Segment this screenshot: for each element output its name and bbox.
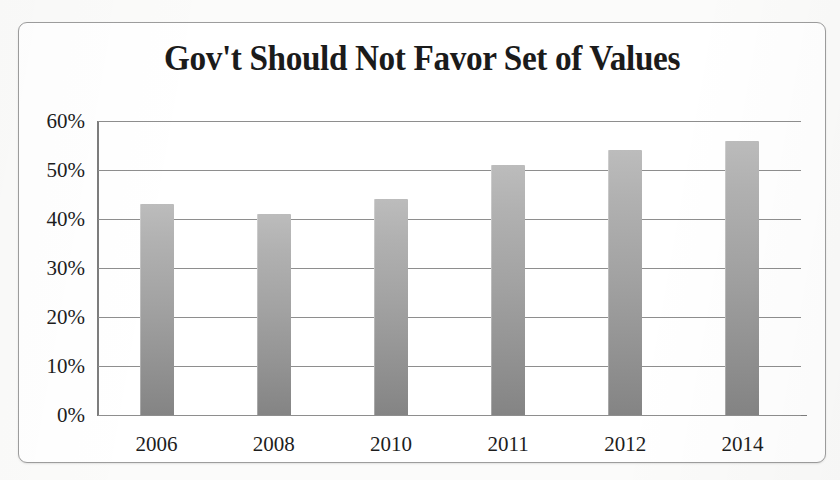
y-tick-label: 10%	[47, 354, 86, 379]
gridline-20	[98, 317, 801, 318]
y-tick-label: 0%	[57, 403, 85, 428]
bar-2014	[725, 141, 759, 415]
x-tick-label-2014: 2014	[721, 432, 763, 457]
x-tick-label-2011: 2011	[487, 432, 528, 457]
chart-frame: Gov't Should Not Favor Set of Values 0%1…	[18, 22, 826, 463]
chart-title: Gov't Should Not Favor Set of Values	[39, 39, 805, 79]
y-tick-label: 20%	[47, 305, 86, 330]
x-tick-label-2008: 2008	[253, 432, 295, 457]
y-tick-label: 60%	[47, 109, 86, 134]
gridline-40	[98, 219, 801, 220]
x-tick-label-2006: 2006	[136, 432, 178, 457]
y-tick-label: 40%	[47, 207, 86, 232]
gridline-30	[98, 268, 801, 269]
bar-2012	[608, 150, 642, 415]
gridline-0	[98, 415, 801, 416]
x-tick-label-2010: 2010	[370, 432, 412, 457]
gridline-50	[98, 170, 801, 171]
bar-2006	[140, 204, 174, 415]
chart-screenshot: Gov't Should Not Favor Set of Values 0%1…	[0, 0, 840, 480]
y-tick-label: 50%	[47, 158, 86, 183]
x-tick-label-2012: 2012	[604, 432, 646, 457]
gridline-10	[98, 366, 801, 367]
plot-area: 0%10%20%30%40%50%60% 2006200820102011201…	[98, 121, 801, 415]
bar-2011	[491, 165, 525, 415]
y-tick-label: 30%	[47, 256, 86, 281]
gridline-60	[98, 121, 801, 122]
bar-2010	[374, 199, 408, 415]
bar-2008	[257, 214, 291, 415]
